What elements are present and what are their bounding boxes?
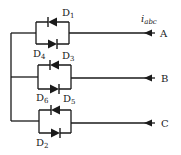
label-d4: D4 <box>33 48 46 61</box>
phase-a-diode-pair <box>36 17 155 49</box>
diode-d5-icon <box>51 105 60 115</box>
label-phase-c: C <box>161 118 169 129</box>
label-d3: D3 <box>62 50 75 63</box>
arrow-b-icon <box>144 75 152 82</box>
arrow-c-icon <box>144 120 152 127</box>
diode-d1-icon <box>48 17 57 27</box>
label-d2: D2 <box>36 137 49 150</box>
diode-d2-icon <box>51 128 60 138</box>
label-phase-a: A <box>159 28 168 39</box>
arrow-a-icon <box>144 30 152 37</box>
label-phase-b: B <box>161 73 168 84</box>
diode-d3-icon <box>50 60 59 70</box>
diode-circuit-diagram: D1 D4 D3 D6 D5 D2 iabc A B C <box>0 0 181 155</box>
label-d1: D1 <box>62 7 75 20</box>
label-d6: D6 <box>36 92 49 105</box>
phase-b-diode-pair <box>38 60 155 94</box>
label-d5: D5 <box>63 93 76 106</box>
phase-c-diode-pair <box>39 105 155 138</box>
diode-d6-icon <box>50 84 59 94</box>
label-current: iabc <box>141 13 157 26</box>
diode-d4-icon <box>48 39 57 49</box>
